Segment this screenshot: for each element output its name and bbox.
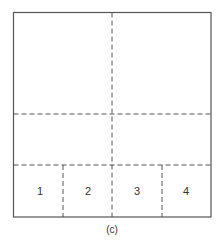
cell-label-1: 1	[37, 185, 43, 197]
cell-label-2: 2	[85, 185, 91, 197]
outer-frame	[14, 13, 212, 218]
figure-caption: (c)	[106, 224, 118, 235]
partition-diagram	[0, 0, 221, 245]
cell-label-4: 4	[183, 185, 189, 197]
cell-label-3: 3	[134, 185, 140, 197]
